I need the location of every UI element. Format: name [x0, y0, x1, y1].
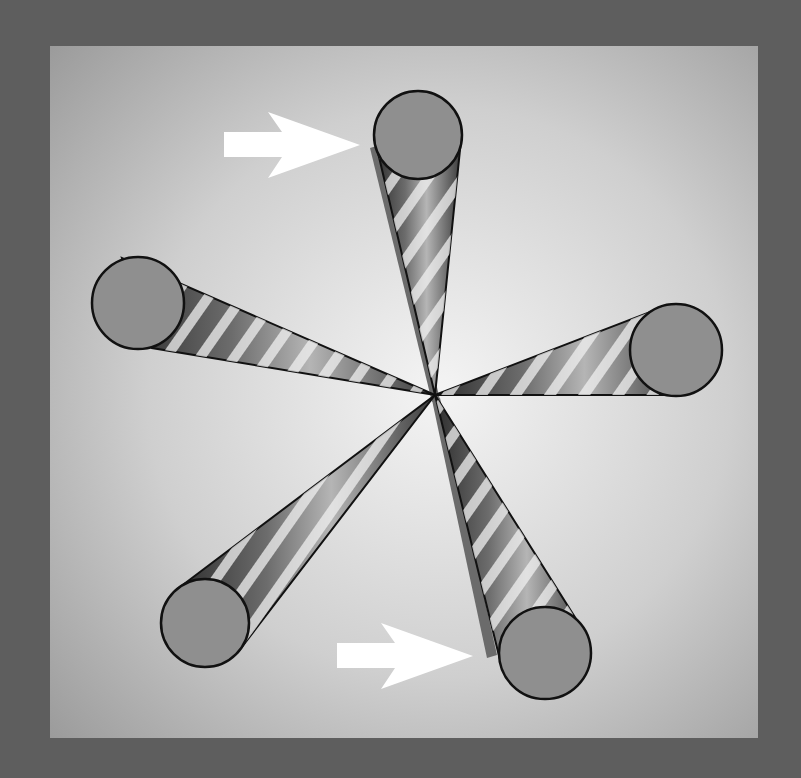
figure-canvas	[0, 0, 801, 778]
cone-right-base	[630, 304, 722, 396]
cone-bottom-left-base	[161, 579, 249, 667]
cone-top-base	[374, 91, 462, 179]
cone-diagram	[0, 0, 801, 778]
cone-bottom-right-base	[499, 607, 591, 699]
cone-left-base	[92, 257, 184, 349]
